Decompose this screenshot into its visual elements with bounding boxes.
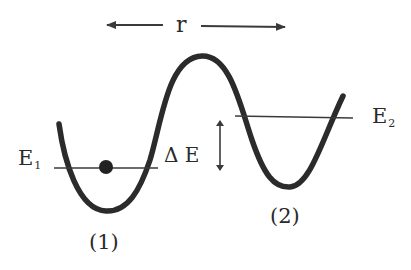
e1-label-subscript: 1 — [34, 159, 41, 172]
e1-label: E1 — [18, 148, 41, 169]
well-1-label: (1) — [89, 232, 119, 253]
e1-label-main: E — [18, 146, 33, 170]
e2-label: E2 — [372, 106, 395, 127]
delta-e-label: Δ E — [164, 145, 199, 165]
e2-label-subscript: 2 — [388, 117, 395, 130]
well-2-label: (2) — [270, 206, 300, 227]
r-arrow-right — [201, 26, 285, 27]
potential-energy-curve — [59, 56, 343, 211]
r-axis-label: r — [176, 14, 187, 36]
diagram-graphics — [0, 0, 411, 270]
e2-label-main: E — [372, 104, 387, 128]
particle-dot — [99, 160, 113, 174]
double-well-diagram: r E1 E2 Δ E (1) (2) — [0, 0, 411, 270]
